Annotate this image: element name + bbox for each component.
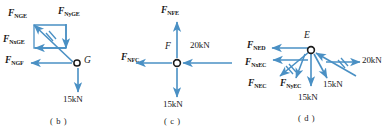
panel-d: FNED FNxEC FNEC FNyEC E 20kN 15kN 15kN (…: [230, 0, 381, 132]
label-fnfe: FNFE: [161, 6, 179, 16]
label-fnfc: FNFC: [121, 53, 139, 63]
label-fned: FNED: [247, 41, 265, 51]
load-label-15kn-right: 15kN: [323, 80, 343, 89]
node-label-e: E: [304, 31, 310, 41]
caption-d: ( d ): [298, 113, 315, 123]
node-label-f: F: [165, 42, 171, 52]
node-f: [174, 60, 181, 67]
label-fnxge: FNxGE: [3, 35, 25, 45]
arrow-diagonal-right: [316, 53, 356, 76]
hatch-marks: [46, 31, 56, 41]
load-label-20kn: 20kN: [190, 41, 210, 50]
label-fnec: FNEC: [248, 79, 266, 89]
node-e: [308, 47, 315, 54]
panel-b: FNGE FNyGE FNxGE FNGF G 15kN ( b ): [0, 0, 130, 132]
load-label-15kn: 15kN: [63, 95, 83, 104]
label-fnge: FNGE: [8, 9, 27, 19]
caption-c: ( c ): [164, 116, 181, 126]
load-label-20kn: 20kN: [362, 56, 382, 65]
panel-c-vectors: [120, 0, 235, 132]
load-label-15kn-center: 15kN: [298, 93, 318, 102]
label-fnyec: FNyEC: [280, 79, 301, 89]
load-label-15kn: 15kN: [163, 100, 183, 109]
force-parallelogram: [34, 25, 66, 48]
panel-b-vectors: [0, 0, 130, 132]
label-fnyge: FNyGE: [58, 7, 80, 17]
arrow-fnge: [34, 25, 73, 62]
panel-c: FNFE FNFC F 20kN 15kN ( c ): [120, 0, 235, 132]
node-label-g: G: [84, 56, 91, 66]
label-fngf: FNGF: [5, 56, 23, 66]
arrow-fnyec: [296, 54, 305, 78]
caption-b: ( b ): [50, 116, 67, 126]
label-fnxec: FNxEC: [245, 58, 266, 68]
node-g: [74, 60, 80, 66]
